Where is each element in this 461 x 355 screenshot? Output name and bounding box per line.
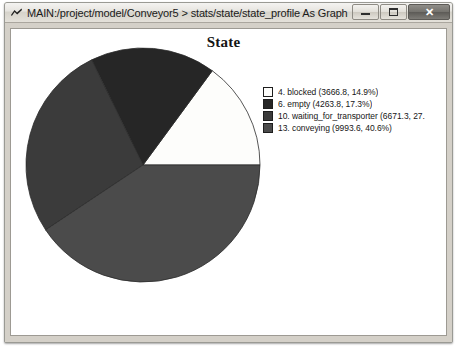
legend-swatch bbox=[263, 123, 273, 133]
close-icon: ✕ bbox=[425, 7, 434, 18]
chart-legend: 4. blocked (3666.8, 14.9%)6. empty (4263… bbox=[263, 86, 447, 134]
legend-item[interactable]: 6. empty (4263.8, 17.3%) bbox=[263, 98, 447, 110]
window-controls: ✕ bbox=[352, 4, 450, 20]
legend-label: 10. waiting_for_transporter (6671.3, 27. bbox=[278, 111, 425, 121]
chart-panel: State 4. blocked (3666.8, 14.9%)6. empty… bbox=[10, 28, 447, 336]
minimize-button[interactable] bbox=[352, 4, 379, 20]
legend-swatch bbox=[263, 99, 273, 109]
legend-item[interactable]: 10. waiting_for_transporter (6671.3, 27. bbox=[263, 110, 447, 122]
window-client-area: State 4. blocked (3666.8, 14.9%)6. empty… bbox=[5, 23, 452, 342]
legend-label: 6. empty (4263.8, 17.3%) bbox=[278, 99, 372, 109]
maximize-button[interactable] bbox=[380, 4, 407, 20]
minimize-icon bbox=[361, 13, 370, 15]
legend-item[interactable]: 4. blocked (3666.8, 14.9%) bbox=[263, 86, 447, 98]
legend-label: 13. conveying (9993.6, 40.6%) bbox=[278, 123, 392, 133]
pie-chart-svg bbox=[23, 47, 263, 287]
pie-slices bbox=[26, 48, 260, 282]
graph-window: MAIN:/project/model/Conveyor5 > stats/st… bbox=[4, 2, 453, 343]
maximize-icon bbox=[389, 8, 398, 16]
window-title: MAIN:/project/model/Conveyor5 > stats/st… bbox=[27, 7, 348, 19]
legend-swatch bbox=[263, 87, 273, 97]
window-title-bar[interactable]: MAIN:/project/model/Conveyor5 > stats/st… bbox=[5, 3, 452, 23]
legend-item[interactable]: 13. conveying (9993.6, 40.6%) bbox=[263, 122, 447, 134]
pie-chart bbox=[23, 47, 263, 287]
chart-app-icon bbox=[10, 6, 23, 19]
legend-swatch bbox=[263, 111, 273, 121]
legend-label: 4. blocked (3666.8, 14.9%) bbox=[278, 87, 378, 97]
close-button[interactable]: ✕ bbox=[408, 4, 450, 20]
